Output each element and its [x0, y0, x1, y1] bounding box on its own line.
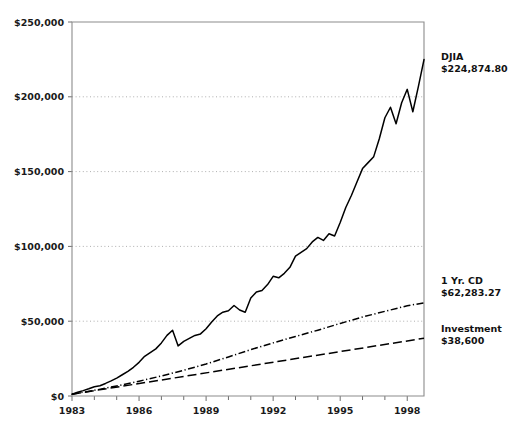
y-axis-tick-label: $250,000: [14, 17, 64, 28]
annotation-cd: 1 Yr. CD $62,283.27: [441, 275, 501, 298]
x-axis-tick-label: 1998: [394, 405, 421, 416]
series-line-djia: [72, 60, 424, 395]
annotation-djia: DJIA $224,874.80: [441, 51, 508, 74]
annotation-cd-label: 1 Yr. CD: [441, 275, 483, 286]
x-axis-tick-label: 1989: [193, 405, 219, 416]
y-axis-tick-label: $200,000: [14, 91, 64, 102]
gridlines: [72, 97, 424, 321]
x-axis-tick-label: 1995: [327, 405, 353, 416]
annotation-investment: Investment $38,600: [441, 323, 502, 346]
x-axis-tick-label: 1986: [126, 405, 153, 416]
annotation-djia-label: DJIA: [441, 51, 464, 62]
annotation-djia-value: $224,874.80: [441, 63, 508, 74]
growth-comparison-chart: $0$50,000$100,000$150,000$200,000$250,00…: [0, 0, 525, 427]
chart-page: $0$50,000$100,000$150,000$200,000$250,00…: [0, 0, 525, 427]
y-axis-ticks: [68, 22, 72, 396]
series-line-1yr-cd: [72, 303, 424, 394]
x-axis-ticks: [72, 396, 407, 401]
y-axis-tick-label: $50,000: [21, 316, 65, 327]
x-axis-tick-label: 1992: [260, 405, 286, 416]
annotation-investment-value: $38,600: [441, 335, 485, 346]
y-axis-tick-labels: $0$50,000$100,000$150,000$200,000$250,00…: [14, 17, 64, 402]
series-line-investment: [72, 338, 424, 394]
y-axis-tick-label: $0: [51, 391, 65, 402]
x-axis-tick-labels: 198319861989199219951998: [59, 405, 421, 416]
annotation-cd-value: $62,283.27: [441, 287, 501, 298]
y-axis-tick-label: $150,000: [14, 166, 64, 177]
y-axis-tick-label: $100,000: [14, 241, 64, 252]
x-axis-tick-label: 1983: [59, 405, 85, 416]
annotation-investment-label: Investment: [441, 323, 502, 334]
plot-frame: [72, 22, 424, 396]
